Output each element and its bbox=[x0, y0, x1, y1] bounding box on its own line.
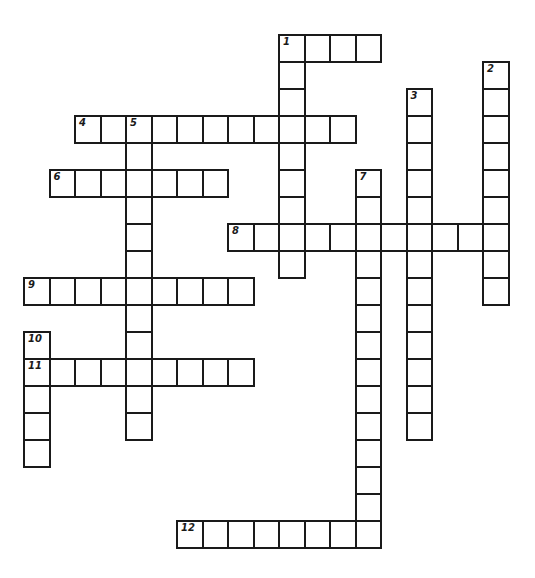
crossword-cell[interactable] bbox=[202, 169, 230, 198]
crossword-cell[interactable] bbox=[125, 331, 153, 360]
crossword-cell[interactable] bbox=[227, 358, 255, 387]
crossword-cell[interactable] bbox=[406, 304, 434, 333]
crossword-cell[interactable] bbox=[482, 277, 510, 306]
crossword-cell[interactable] bbox=[482, 115, 510, 144]
crossword-cell[interactable] bbox=[482, 169, 510, 198]
crossword-cell[interactable] bbox=[482, 88, 510, 117]
crossword-cell[interactable] bbox=[227, 115, 255, 144]
crossword-cell[interactable] bbox=[23, 385, 51, 414]
crossword-cell[interactable]: 8 bbox=[227, 223, 255, 252]
crossword-cell[interactable] bbox=[406, 412, 434, 441]
crossword-cell[interactable] bbox=[278, 223, 306, 252]
crossword-cell[interactable] bbox=[406, 358, 434, 387]
crossword-cell[interactable] bbox=[355, 331, 383, 360]
crossword-cell[interactable] bbox=[278, 250, 306, 279]
crossword-cell[interactable] bbox=[278, 115, 306, 144]
crossword-cell[interactable] bbox=[406, 142, 434, 171]
crossword-cell[interactable] bbox=[406, 223, 434, 252]
crossword-cell[interactable] bbox=[74, 277, 102, 306]
crossword-cell[interactable] bbox=[406, 115, 434, 144]
crossword-cell[interactable] bbox=[380, 223, 408, 252]
crossword-cell[interactable] bbox=[125, 196, 153, 225]
crossword-cell[interactable] bbox=[406, 385, 434, 414]
crossword-cell[interactable] bbox=[406, 250, 434, 279]
crossword-cell[interactable] bbox=[23, 412, 51, 441]
crossword-cell[interactable] bbox=[304, 115, 332, 144]
crossword-cell[interactable] bbox=[125, 358, 153, 387]
crossword-cell[interactable] bbox=[74, 169, 102, 198]
crossword-cell[interactable] bbox=[227, 520, 255, 549]
crossword-cell[interactable] bbox=[100, 358, 128, 387]
crossword-cell[interactable] bbox=[176, 358, 204, 387]
crossword-cell[interactable] bbox=[176, 169, 204, 198]
crossword-cell[interactable] bbox=[202, 115, 230, 144]
crossword-cell[interactable] bbox=[355, 412, 383, 441]
crossword-cell[interactable] bbox=[49, 277, 77, 306]
crossword-cell[interactable] bbox=[176, 115, 204, 144]
crossword-cell[interactable] bbox=[482, 250, 510, 279]
crossword-cell[interactable]: 11 bbox=[23, 358, 51, 387]
crossword-cell[interactable] bbox=[151, 169, 179, 198]
crossword-cell[interactable] bbox=[253, 223, 281, 252]
crossword-cell[interactable] bbox=[278, 169, 306, 198]
crossword-cell[interactable] bbox=[355, 34, 383, 63]
crossword-cell[interactable] bbox=[304, 34, 332, 63]
crossword-cell[interactable]: 1 bbox=[278, 34, 306, 63]
crossword-cell[interactable] bbox=[329, 520, 357, 549]
crossword-cell[interactable] bbox=[278, 88, 306, 117]
crossword-cell[interactable] bbox=[355, 223, 383, 252]
crossword-cell[interactable] bbox=[406, 169, 434, 198]
crossword-cell[interactable] bbox=[355, 385, 383, 414]
crossword-cell[interactable] bbox=[227, 277, 255, 306]
crossword-cell[interactable] bbox=[355, 304, 383, 333]
crossword-cell[interactable] bbox=[406, 196, 434, 225]
crossword-cell[interactable]: 7 bbox=[355, 169, 383, 198]
crossword-cell[interactable] bbox=[100, 115, 128, 144]
crossword-cell[interactable] bbox=[329, 115, 357, 144]
crossword-cell[interactable] bbox=[151, 358, 179, 387]
crossword-cell[interactable] bbox=[355, 466, 383, 495]
crossword-cell[interactable] bbox=[355, 520, 383, 549]
crossword-cell[interactable] bbox=[253, 115, 281, 144]
crossword-cell[interactable]: 12 bbox=[176, 520, 204, 549]
crossword-cell[interactable] bbox=[355, 439, 383, 468]
crossword-cell[interactable] bbox=[100, 169, 128, 198]
crossword-cell[interactable] bbox=[355, 196, 383, 225]
crossword-cell[interactable] bbox=[304, 223, 332, 252]
crossword-cell[interactable] bbox=[125, 250, 153, 279]
crossword-cell[interactable] bbox=[253, 520, 281, 549]
crossword-cell[interactable] bbox=[482, 142, 510, 171]
crossword-cell[interactable] bbox=[406, 277, 434, 306]
crossword-cell[interactable]: 5 bbox=[125, 115, 153, 144]
crossword-cell[interactable] bbox=[355, 358, 383, 387]
crossword-cell[interactable] bbox=[202, 358, 230, 387]
crossword-cell[interactable] bbox=[202, 520, 230, 549]
crossword-cell[interactable] bbox=[125, 385, 153, 414]
crossword-cell[interactable] bbox=[278, 142, 306, 171]
crossword-cell[interactable] bbox=[482, 223, 510, 252]
crossword-cell[interactable] bbox=[278, 61, 306, 90]
crossword-cell[interactable]: 2 bbox=[482, 61, 510, 90]
crossword-cell[interactable] bbox=[278, 520, 306, 549]
crossword-cell[interactable] bbox=[457, 223, 485, 252]
crossword-cell[interactable] bbox=[151, 115, 179, 144]
crossword-cell[interactable]: 6 bbox=[49, 169, 77, 198]
crossword-cell[interactable] bbox=[49, 358, 77, 387]
crossword-cell[interactable]: 4 bbox=[74, 115, 102, 144]
crossword-cell[interactable] bbox=[23, 439, 51, 468]
crossword-cell[interactable] bbox=[355, 493, 383, 522]
crossword-cell[interactable] bbox=[74, 358, 102, 387]
crossword-cell[interactable]: 10 bbox=[23, 331, 51, 360]
crossword-cell[interactable]: 9 bbox=[23, 277, 51, 306]
crossword-cell[interactable] bbox=[329, 223, 357, 252]
crossword-cell[interactable] bbox=[176, 277, 204, 306]
crossword-cell[interactable]: 3 bbox=[406, 88, 434, 117]
crossword-cell[interactable] bbox=[151, 277, 179, 306]
crossword-cell[interactable] bbox=[125, 169, 153, 198]
crossword-cell[interactable] bbox=[100, 277, 128, 306]
crossword-cell[interactable] bbox=[278, 196, 306, 225]
crossword-cell[interactable] bbox=[125, 412, 153, 441]
crossword-cell[interactable] bbox=[125, 304, 153, 333]
crossword-cell[interactable] bbox=[482, 196, 510, 225]
crossword-cell[interactable] bbox=[431, 223, 459, 252]
